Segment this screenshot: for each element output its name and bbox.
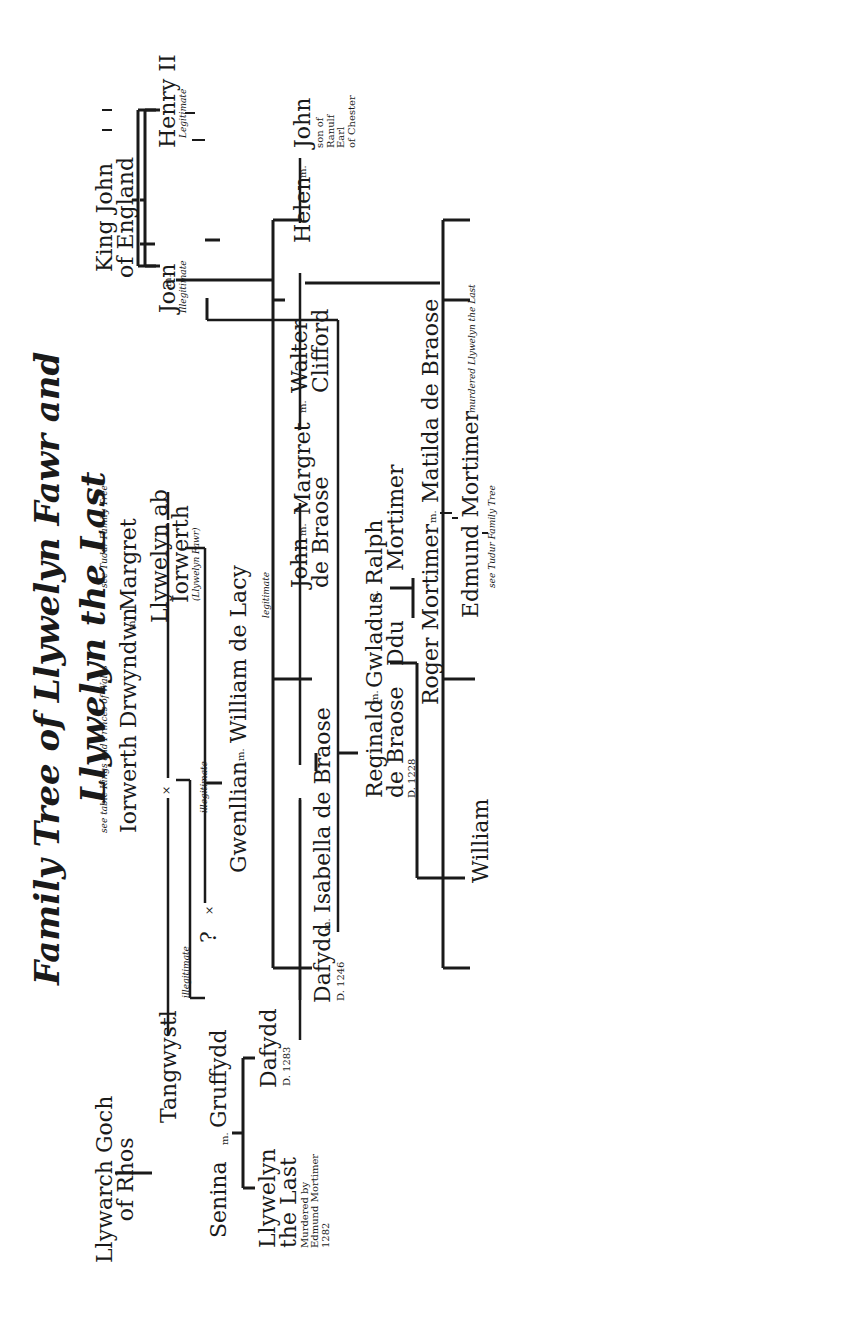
family-tree-diagram: Family Tree of Llywelyn Fawr and Llywely… <box>0 0 844 1323</box>
tree-lines-detail <box>0 0 844 1323</box>
